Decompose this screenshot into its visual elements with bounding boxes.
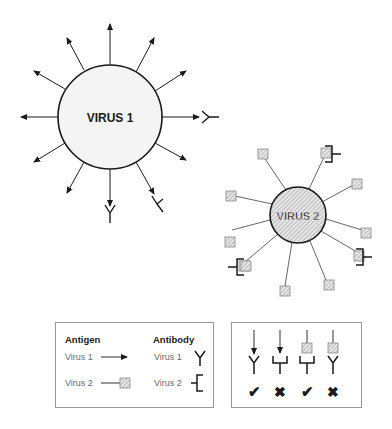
antigen-square-icon: [225, 237, 235, 247]
legend-antigen-heading: Antigen: [65, 334, 101, 345]
antigen-square-icon: [361, 228, 371, 238]
antigen-arrow-icon: [155, 143, 186, 160]
antigen-square-icon: [226, 191, 236, 201]
antigen-arrow-icon: [67, 162, 84, 193]
virus1-label: VIRUS 1: [87, 111, 134, 125]
legend-antibody-heading: Antibody: [153, 334, 195, 345]
antibody-y-icon: [202, 111, 219, 123]
legend-antibody-virus1-label: Virus 1: [154, 352, 182, 362]
diagram-canvas: VIRUS 1 VIRUS 2: [0, 0, 392, 429]
legend-antibody-virus2-label: Virus 2: [154, 378, 182, 388]
antigen-square-icon: [352, 179, 362, 189]
antigen-square-icon: [280, 286, 290, 296]
virus2-label: VIRUS 2: [277, 210, 320, 222]
virus1-group: VIRUS 1: [21, 24, 219, 223]
antigen-square-icon: [241, 261, 251, 271]
antigen-arrow-icon: [136, 162, 154, 194]
legend-box: Antigen Antibody Virus 1 Virus 1 Virus 2…: [56, 323, 214, 408]
binding-key-box: ✔ ✖ ✔ ✖: [232, 323, 362, 408]
antigen-arrow-icon: [136, 38, 154, 72]
legend-square-icon: [120, 378, 130, 388]
antibody-y-icon: [152, 196, 163, 212]
antigen-arrow-icon: [155, 71, 186, 91]
match-check-icon: ✔: [301, 383, 314, 400]
no-match-cross-icon: ✖: [274, 384, 286, 400]
match-check-icon: ✔: [248, 383, 261, 400]
antigen-square-icon: [321, 148, 331, 158]
antigen-square-icon: [324, 280, 334, 290]
no-match-cross-icon: ✖: [327, 384, 339, 400]
antibody-y-icon: [105, 205, 115, 223]
legend-antigen-virus1-label: Virus 1: [65, 352, 93, 362]
antigen-arrow-icon: [34, 143, 65, 162]
legend-antigen-virus2-label: Virus 2: [65, 378, 93, 388]
antigen-square-icon: [258, 149, 268, 159]
antigen-arrow-icon: [34, 71, 65, 89]
antigen-arrow-icon: [67, 38, 84, 70]
virus2-group: VIRUS 2: [225, 146, 372, 296]
